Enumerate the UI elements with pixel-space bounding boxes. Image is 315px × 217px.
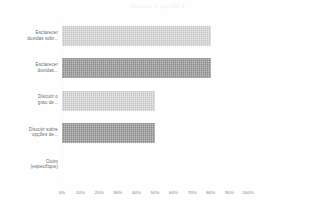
category-label: Outro(especifique)	[0, 159, 58, 170]
bar-row	[62, 155, 248, 175]
x-tick-label: 50%	[151, 190, 160, 195]
bar-row	[62, 91, 248, 111]
category-label-line: duvidas sobr...	[0, 36, 58, 42]
x-tick-label: 20%	[95, 190, 104, 195]
bar-row	[62, 123, 248, 143]
category-label-column: Esclarecerduvidas sobr...Esclarecerduvid…	[0, 20, 58, 181]
x-tick-label: 30%	[113, 190, 122, 195]
x-tick-label: 0%	[59, 190, 65, 195]
category-label-line: duvidas...	[0, 68, 58, 74]
category-label-line: (especifique)	[0, 164, 58, 170]
chart-title: Assinale a questão 3	[0, 3, 315, 9]
x-tick-label: 40%	[132, 190, 141, 195]
x-tick-label: 90%	[225, 190, 234, 195]
x-tick-label: 80%	[206, 190, 215, 195]
x-tick-label: 100%	[242, 190, 253, 195]
x-tick-label: 10%	[76, 190, 85, 195]
bar	[62, 58, 211, 78]
bar-row	[62, 58, 248, 78]
bar-row	[62, 26, 248, 46]
plot-area	[62, 20, 248, 181]
x-tick-label: 70%	[188, 190, 197, 195]
bar	[62, 26, 211, 46]
category-label: Esclarecerduvidas...	[0, 62, 58, 73]
bar	[62, 123, 155, 143]
category-label: Discutir sobreopções de...	[0, 127, 58, 138]
x-tick-label: 60%	[169, 190, 178, 195]
bar-chart: Assinale a questão 3 Esclarecerduvidas s…	[0, 0, 315, 217]
bar	[62, 91, 155, 111]
x-axis-tick-labels: 0%10%20%30%40%50%60%70%80%90%100%	[62, 190, 248, 200]
category-label-line: grau de...	[0, 100, 58, 106]
category-label: Discutir ograu de...	[0, 94, 58, 105]
category-label: Esclarecerduvidas sobr...	[0, 30, 58, 41]
category-label-line: opções de...	[0, 132, 58, 138]
